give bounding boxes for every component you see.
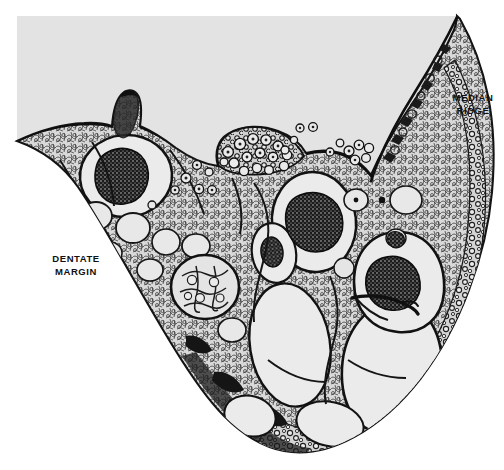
vacuole-small-6 [137,259,163,281]
nucleus-right-marginal [388,232,405,248]
nucleus-upper-center [286,193,343,252]
label-dentate-margin: DENTATE MARGIN [44,253,108,278]
loculated-follicle [171,255,239,319]
histology-illustration [0,0,504,470]
label-median-ridge: MEDIAN RIDGE [444,92,502,117]
vacuole-small-2 [116,213,150,243]
vacuole-small-3 [152,229,180,255]
nucleolus-dot-right [379,197,385,203]
nucleolus-dot-mid [354,198,359,203]
vacuole-small-10 [390,186,422,214]
vacuole-small-12 [334,258,354,278]
histology-figure-plate: DENTATE MARGIN MEDIAN RIDGE [0,0,504,470]
vacuole-small-7 [218,318,246,342]
nucleus-apex [95,148,148,204]
